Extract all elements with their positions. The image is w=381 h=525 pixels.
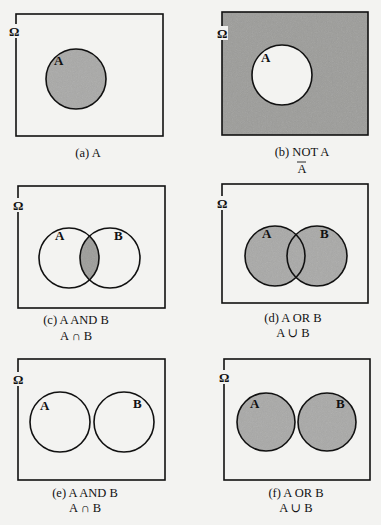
panel-d: Ω A B (d) A OR B A ∪ B	[216, 184, 368, 340]
set-b-circle	[94, 392, 154, 452]
panel-caption: (d) A OR B	[264, 311, 321, 325]
panel-a: Ω A (a) A	[8, 14, 163, 160]
set-a-label: A	[261, 50, 271, 65]
panel-caption: (e) A AND B	[52, 486, 118, 500]
set-b-label: B	[320, 226, 329, 241]
set-b-label: B	[114, 228, 123, 243]
omega-label: Ω	[219, 370, 229, 385]
panel-c: Ω A B (c) A AND B A ∩ B	[12, 186, 165, 343]
panel-caption: (b) NOT A	[275, 145, 330, 159]
panel-notation: A ∪ B	[279, 501, 312, 515]
omega-label: Ω	[217, 196, 227, 211]
panel-f: Ω A B (f) A OR B A ∪ B	[218, 359, 370, 515]
panel-caption: (f) A OR B	[268, 486, 323, 500]
panel-notation: A ∪ B	[276, 326, 309, 340]
venn-diagram-figure: Ω A (a) A Ω A (b) NOT A A Ω A B (c) A AN…	[0, 0, 381, 525]
panel-notation: A	[297, 162, 306, 176]
set-a-circle	[30, 392, 90, 452]
panel-caption: (c) A AND B	[43, 313, 109, 327]
omega-label: Ω	[13, 198, 23, 213]
set-a-label: A	[55, 228, 65, 243]
universe-box	[18, 359, 165, 480]
set-a-label: A	[250, 396, 260, 411]
set-b-label: B	[133, 396, 142, 411]
omega-label: Ω	[217, 26, 227, 41]
panel-b: Ω A (b) NOT A A	[216, 12, 368, 176]
omega-label: Ω	[13, 372, 23, 387]
set-a-label: A	[54, 53, 64, 68]
set-a-label: A	[40, 398, 50, 413]
omega-label: Ω	[9, 24, 19, 39]
panel-notation: A ∩ B	[60, 329, 92, 343]
set-b-label: B	[336, 396, 345, 411]
panel-caption: (a) A	[75, 146, 100, 160]
panel-notation: A ∩ B	[69, 501, 101, 515]
set-a-label: A	[262, 226, 272, 241]
panel-e: Ω A B (e) A AND B A ∩ B	[12, 359, 165, 515]
